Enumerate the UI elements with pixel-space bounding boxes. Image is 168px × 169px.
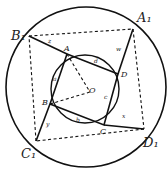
label-D1: D₁	[142, 135, 159, 150]
diagram-canvas: B₁ A₁ C₁ D₁ A D C B O a b c d w x y z	[0, 0, 168, 169]
label-z: z	[47, 37, 52, 44]
label-x: x	[122, 112, 126, 119]
label-b: b	[76, 116, 80, 123]
label-B: B	[41, 98, 48, 107]
label-O: O	[89, 86, 96, 95]
geometry-figure: B₁ A₁ C₁ D₁ A D C B O a b c d w x y z	[0, 0, 168, 169]
label-y: y	[45, 120, 50, 128]
label-A: A	[63, 44, 70, 53]
label-C: C	[100, 127, 106, 136]
label-a: a	[53, 75, 57, 82]
label-C1: C₁	[21, 146, 36, 161]
label-w: w	[116, 45, 122, 52]
outer-circle	[6, 7, 166, 167]
inner-circle	[51, 55, 119, 123]
label-c: c	[104, 93, 108, 100]
label-D: D	[120, 70, 128, 79]
label-B1: B₁	[10, 28, 26, 43]
label-d: d	[94, 57, 98, 64]
label-A1: A₁	[136, 10, 152, 25]
